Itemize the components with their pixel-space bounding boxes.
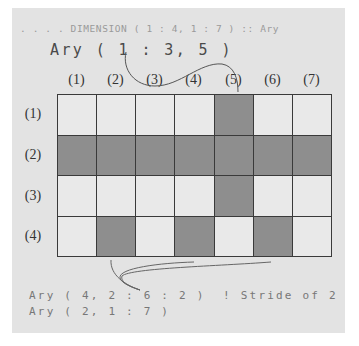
array-cell-1-6 (254, 95, 292, 135)
array-cell-2-4 (175, 136, 213, 176)
array-cell-3-7 (293, 176, 331, 216)
array-cell-1-3 (136, 95, 174, 135)
array-cell-4-6 (254, 217, 292, 257)
row-section-expression: Ary ( 2, 1 : 7 ) (29, 305, 170, 318)
row-label-3: (3) (18, 188, 48, 204)
array-cell-1-5 (215, 95, 253, 135)
array-grid (57, 94, 332, 257)
array-cell-4-3 (136, 217, 174, 257)
array-cell-1-4 (175, 95, 213, 135)
row-label-4: (4) (18, 228, 48, 244)
array-cell-4-2 (97, 217, 135, 257)
array-cell-2-1 (58, 136, 96, 176)
array-cell-1-1 (58, 95, 96, 135)
array-cell-3-3 (136, 176, 174, 216)
array-cell-2-2 (97, 136, 135, 176)
col-label-6: (6) (253, 72, 292, 88)
array-cell-1-2 (97, 95, 135, 135)
array-cell-1-7 (293, 95, 331, 135)
dimension-declaration: . . . . DIMENSION ( 1 : 4, 1 : 7 ) :: Ar… (20, 23, 279, 34)
array-cell-4-7 (293, 217, 331, 257)
array-cell-2-6 (254, 136, 292, 176)
array-cell-3-2 (97, 176, 135, 216)
col-label-7: (7) (292, 72, 331, 88)
array-cell-4-5 (215, 217, 253, 257)
array-cell-4-1 (58, 217, 96, 257)
row-label-1: (1) (18, 106, 48, 122)
array-cell-4-4 (175, 217, 213, 257)
array-cell-2-5 (215, 136, 253, 176)
array-cell-3-5 (215, 176, 253, 216)
array-cell-3-1 (58, 176, 96, 216)
row-label-2: (2) (18, 147, 48, 163)
array-cell-2-3 (136, 136, 174, 176)
col-label-1: (1) (57, 72, 96, 88)
array-cell-3-6 (254, 176, 292, 216)
col-label-2: (2) (96, 72, 135, 88)
col-label-3: (3) (135, 72, 174, 88)
array-cell-2-7 (293, 136, 331, 176)
col-label-5: (5) (214, 72, 253, 88)
column-section-expression: Ary ( 1 : 3, 5 ) (50, 41, 233, 59)
col-label-4: (4) (174, 72, 213, 88)
array-cell-3-4 (175, 176, 213, 216)
stride-section-expression: Ary ( 4, 2 : 6 : 2 ) ! Stride of 2 (29, 289, 338, 302)
